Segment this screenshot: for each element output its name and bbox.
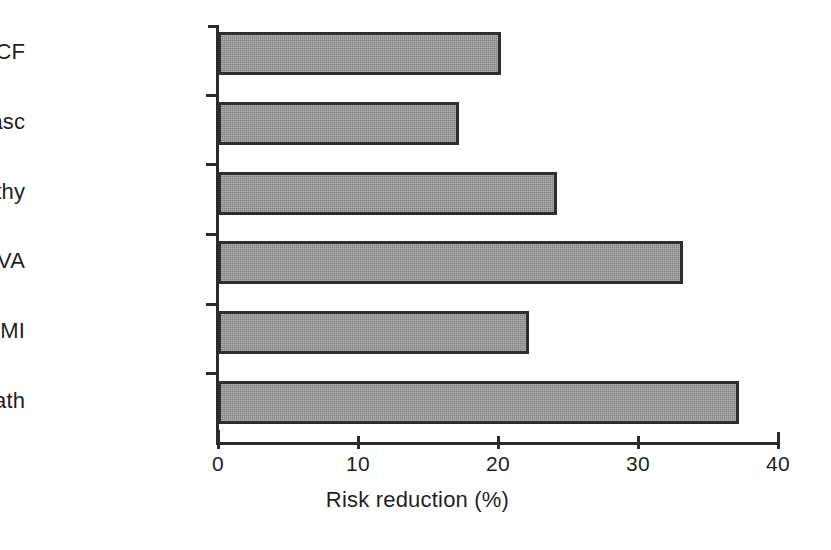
bar-ccf [218,32,501,75]
x-axis-tick [217,430,220,449]
category-label: Non-fatal MI [0,318,25,344]
category-label: CCF [0,39,25,65]
category-label: CVA [0,248,25,274]
y-axis-tick [206,372,217,375]
x-axis-tick [357,436,360,449]
x-axis-title-text: Risk reduction (%) [326,487,509,512]
x-axis-tick-label: 0 [212,452,224,476]
bar-cv-death [218,381,739,424]
bar-nephropathy [218,172,557,215]
y-axis-tick [206,303,217,306]
bar-revasc [218,102,459,145]
y-axis-tick [206,233,217,236]
category-label: CV death [0,388,25,414]
x-axis-tick [637,436,640,449]
bar-chart-figure: 010203040 CCFRevascNephropathyCVANon-fat… [0,0,831,550]
x-axis-tick-label: 30 [626,452,650,476]
category-label: Revasc [0,109,25,135]
y-axis-tick [206,163,217,166]
x-axis-tick [777,436,780,449]
y-axis-tick [206,94,217,97]
x-axis-tick-label: 10 [346,452,370,476]
x-axis-title: Risk reduction (%) [0,487,831,513]
bar-cva [218,241,683,284]
x-axis-tick-label: 20 [486,452,510,476]
category-label: Nephropathy [0,179,25,205]
x-axis-tick [497,436,500,449]
x-axis-tick-label: 40 [766,452,790,476]
bar-non-fatal-mi [218,311,529,354]
